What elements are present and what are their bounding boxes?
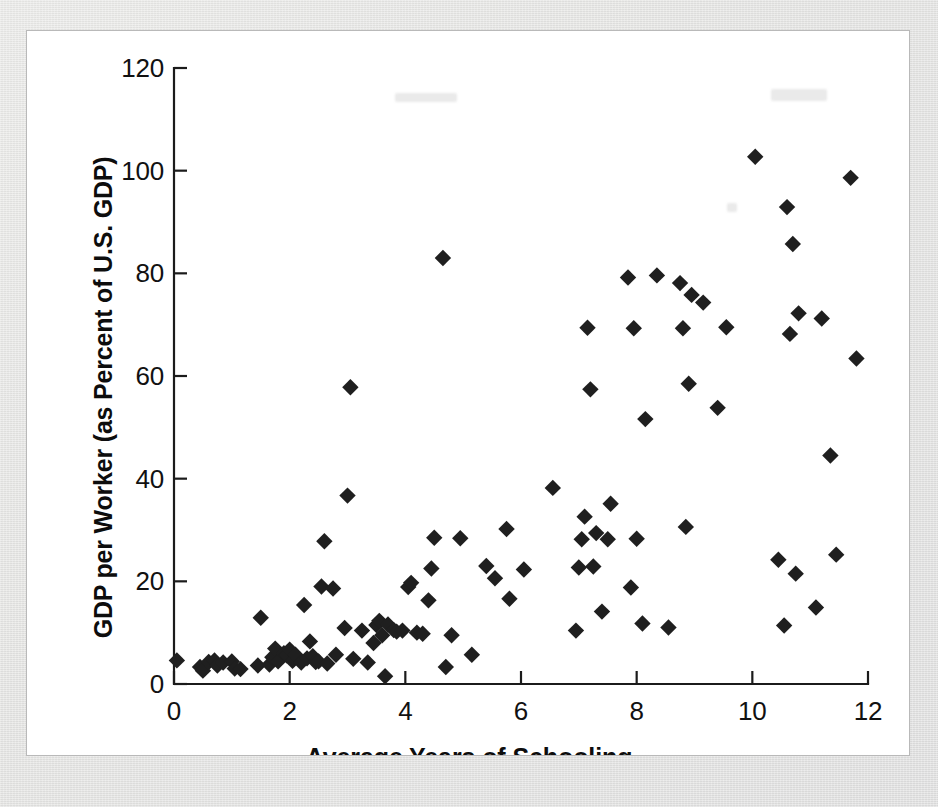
data-point [675, 320, 691, 336]
axis-spine [174, 68, 868, 684]
data-markers [169, 149, 865, 685]
data-point [316, 533, 332, 549]
y-axis-title: GDP per Worker (as Percent of U.S. GDP) [89, 78, 118, 718]
axis-ticks [174, 68, 868, 684]
data-point [354, 622, 370, 638]
data-point [501, 591, 517, 607]
data-point [420, 592, 436, 608]
data-point [498, 521, 514, 537]
figure-panel: 020406080100120 024681012 GDP per Worker… [26, 30, 910, 756]
x-tick-label-4: 4 [398, 696, 412, 727]
data-point [814, 310, 830, 326]
data-point [576, 508, 592, 524]
data-point [848, 350, 864, 366]
data-point [325, 580, 341, 596]
data-point [169, 652, 185, 668]
data-point [822, 447, 838, 463]
data-point [808, 599, 824, 615]
data-point [776, 617, 792, 633]
data-point [574, 531, 590, 547]
data-point [423, 560, 439, 576]
data-point [438, 659, 454, 675]
data-point [790, 305, 806, 321]
data-point [426, 530, 442, 546]
data-point [842, 170, 858, 186]
data-point [628, 531, 644, 547]
data-point [637, 411, 653, 427]
data-point [339, 487, 355, 503]
data-point [345, 651, 361, 667]
data-point [672, 275, 688, 291]
data-point [594, 603, 610, 619]
data-point [342, 379, 358, 395]
chart-canvas [27, 31, 910, 756]
axes [174, 68, 868, 684]
data-point [770, 552, 786, 568]
data-point [253, 610, 269, 626]
data-point [681, 376, 697, 392]
data-point [336, 620, 352, 636]
data-point [747, 149, 763, 165]
data-point [443, 627, 459, 643]
data-point [464, 647, 480, 663]
data-point [435, 250, 451, 266]
data-point [828, 546, 844, 562]
x-axis-title: Average Years of Schooling [27, 743, 910, 756]
data-point [623, 579, 639, 595]
data-point [785, 236, 801, 252]
x-tick-label-2: 2 [283, 696, 297, 727]
data-point [360, 654, 376, 670]
data-point [620, 269, 636, 285]
data-point [545, 480, 561, 496]
data-point [452, 530, 468, 546]
data-point [516, 561, 532, 577]
data-point [782, 326, 798, 342]
data-point [779, 199, 795, 215]
data-point [626, 320, 642, 336]
data-point [634, 615, 650, 631]
data-point [660, 619, 676, 635]
data-point [568, 622, 584, 638]
data-point [709, 400, 725, 416]
data-point [487, 570, 503, 586]
data-point [302, 633, 318, 649]
data-point [377, 668, 393, 684]
data-point [718, 319, 734, 335]
data-point [788, 565, 804, 581]
data-point [296, 597, 312, 613]
x-tick-label-12: 12 [854, 696, 883, 727]
data-point [602, 496, 618, 512]
scatter-plot: 020406080100120 024681012 GDP per Worker… [27, 31, 909, 755]
x-tick-label-6: 6 [514, 696, 528, 727]
data-point [582, 381, 598, 397]
data-point [579, 320, 595, 336]
x-tick-label-0: 0 [167, 696, 181, 727]
data-point [571, 559, 587, 575]
data-point [649, 267, 665, 283]
x-tick-label-8: 8 [630, 696, 644, 727]
data-point [585, 558, 601, 574]
data-point [478, 558, 494, 574]
data-point [678, 519, 694, 535]
x-tick-label-10: 10 [738, 696, 767, 727]
scanned-page: 020406080100120 024681012 GDP per Worker… [0, 0, 938, 807]
